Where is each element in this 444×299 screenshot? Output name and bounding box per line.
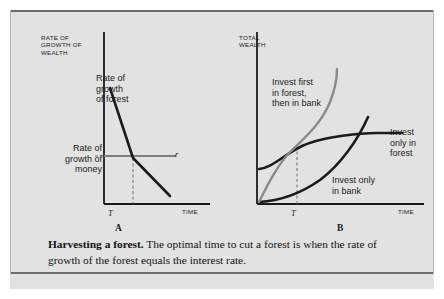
panel-b-tick-label-T: T	[291, 208, 296, 218]
panel-a-interest-rate-label: r	[175, 149, 178, 159]
charts-area: RATE OF GROWTH OF WEALTH Rate of growth …	[10, 12, 434, 230]
panel-a-y-axis-label: RATE OF GROWTH OF WEALTH	[41, 34, 82, 56]
panel-b-invest-only-forest-label: Invest only in forest	[390, 127, 416, 159]
figure-bottom-rule	[10, 272, 434, 274]
panel-b-label: B	[337, 223, 343, 234]
panel-b-y-axis-label: TOTAL WEALTH	[239, 34, 266, 49]
figure-frame: RATE OF GROWTH OF WEALTH Rate of growth …	[10, 10, 434, 289]
figure-caption: Harvesting a forest. The optimal time to…	[48, 236, 400, 268]
panel-b-invest-only-bank-label: Invest only in bank	[332, 175, 375, 196]
panel-b-x-axis-label: TIME	[398, 208, 414, 215]
panel-a-forest-curve-label: Rate of growth of forest	[96, 73, 129, 105]
panel-a-group	[95, 32, 210, 204]
panel-a-money-curve-label: Rate of growth of money	[44, 143, 102, 175]
panel-a-label: A	[115, 223, 122, 234]
panel-b-invest-first-label: Invest first in forest, then in bank	[272, 77, 321, 109]
panel-a-tick-label-T: T	[108, 208, 113, 218]
panel-a-x-axis-label: TIME	[182, 208, 198, 215]
figure-caption-title: Harvesting a forest.	[48, 238, 144, 250]
